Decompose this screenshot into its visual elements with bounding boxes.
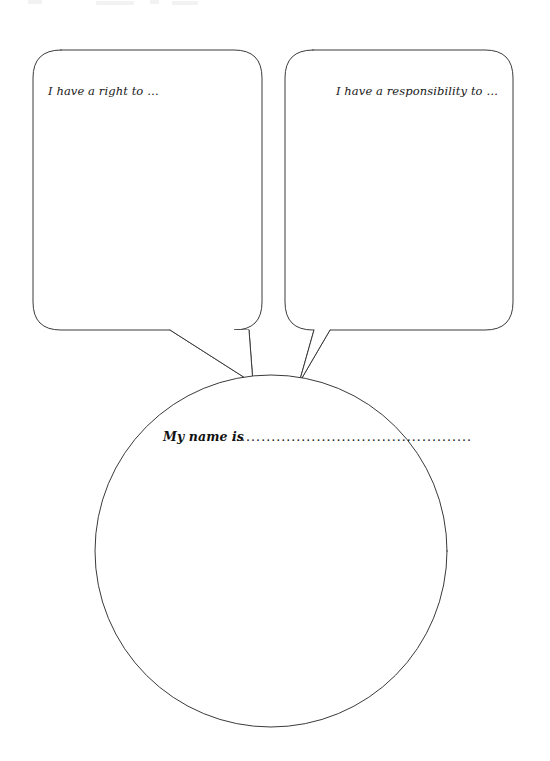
worksheet-page: I have a right to … I have a responsibil… — [0, 0, 550, 761]
name-circle[interactable]: My name is .............................… — [95, 375, 472, 727]
speech-bubble-responsibility-statement-prompt: I have a responsibility to … — [335, 84, 498, 98]
name-field-dot-leader[interactable]: ........................................… — [231, 429, 472, 444]
name-circle-outline — [95, 375, 447, 727]
speech-bubble-responsibility-statement-tail — [299, 330, 330, 383]
speech-bubble-responsibility-statement[interactable]: I have a responsibility to … — [285, 50, 513, 383]
speech-bubble-right-statement-prompt: I have a right to … — [47, 84, 159, 98]
speech-bubble-right-statement[interactable]: I have a right to … — [33, 50, 262, 383]
speech-bubble-right-statement-tail — [170, 330, 253, 383]
worksheet-canvas: I have a right to … I have a responsibil… — [0, 0, 550, 761]
